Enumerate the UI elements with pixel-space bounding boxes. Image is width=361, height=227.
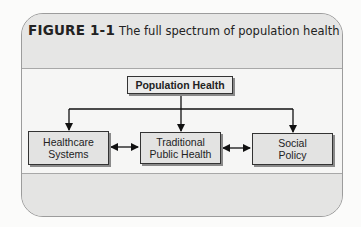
node-population-health-label: Population Health xyxy=(135,79,224,91)
node-traditional-public-health-line1: Traditional xyxy=(150,136,212,148)
node-healthcare-systems-line2: Systems xyxy=(43,148,94,160)
node-traditional-public-health-line2: Public Health xyxy=(150,148,212,160)
diagram-connectors xyxy=(0,0,361,227)
node-social-policy-line2: Policy xyxy=(278,149,307,161)
node-population-health: Population Health xyxy=(127,76,233,94)
node-healthcare-systems-line1: Healthcare xyxy=(43,136,94,148)
node-social-policy: Social Policy xyxy=(252,133,333,165)
node-healthcare-systems: Healthcare Systems xyxy=(28,131,109,165)
node-social-policy-line1: Social xyxy=(278,137,307,149)
node-traditional-public-health: Traditional Public Health xyxy=(140,132,221,164)
